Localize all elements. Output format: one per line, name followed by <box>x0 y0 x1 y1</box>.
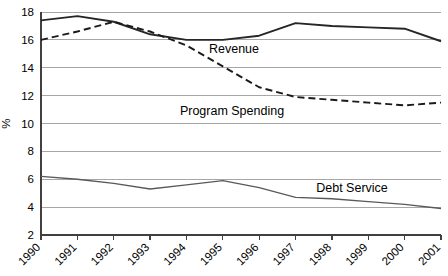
x-axis-tick-label: 1996 <box>234 241 261 268</box>
y-axis-tick-label: 8 <box>28 145 34 157</box>
x-axis-tick-labels: 1990199119921993199419951996199719981999… <box>16 241 443 268</box>
y-axis-title: % <box>0 118 12 128</box>
series-label-revenue: Revenue <box>209 42 259 56</box>
x-axis-tick-label: 2000 <box>379 241 406 268</box>
line-chart: 24681012141618 1990199119921993199419951… <box>0 0 448 276</box>
x-axis-tick-label: 1995 <box>198 241 225 268</box>
x-axis-tick-label: 1998 <box>307 241 334 268</box>
y-axis-tick-label: 14 <box>21 62 34 74</box>
y-axis-tick-label: 18 <box>21 6 34 18</box>
x-axis-tick-label: 1999 <box>343 241 370 268</box>
y-axis-tick-label: 4 <box>28 201 35 213</box>
x-axis-tick-label: 1997 <box>270 241 297 268</box>
chart-canvas: 24681012141618 1990199119921993199419951… <box>0 0 448 276</box>
series-label-program-spending: Program Spending <box>180 104 284 118</box>
y-axis-tick-label: 2 <box>28 229 34 241</box>
y-axis-tick-label: 12 <box>21 90 34 102</box>
x-axis-tick-label: 1991 <box>52 241 79 268</box>
series-label-debt-service: Debt Service <box>316 181 388 195</box>
y-axis-tick-label: 10 <box>21 118 34 130</box>
y-axis-tick-label: 6 <box>28 173 34 185</box>
x-axis-tick-label: 1992 <box>89 241 116 268</box>
x-axis-tick-label: 1994 <box>161 241 188 268</box>
y-axis-tick-label: 16 <box>21 34 34 46</box>
series-annotations: RevenueProgram SpendingDebt Service <box>180 42 388 195</box>
series-line-revenue <box>41 16 441 41</box>
x-axis-tick-label: 2001 <box>416 241 443 268</box>
x-axis-tick-label: 1993 <box>125 241 152 268</box>
y-axis-tick-labels: 24681012141618 <box>21 6 34 241</box>
series-line-program-spending <box>41 22 441 106</box>
x-axis-tick-label: 1990 <box>16 241 43 268</box>
